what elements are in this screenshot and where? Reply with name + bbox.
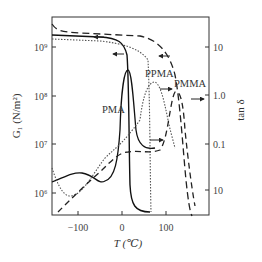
right-tick-label: 10 (213, 42, 223, 53)
ppma-tan-delta-curve (52, 82, 175, 196)
y-left-axis-title: G₁ (N/m²) (10, 93, 23, 138)
pmma-tan-delta-curve (58, 92, 195, 212)
x-tick-label: 0 (120, 222, 125, 233)
right-tick-label: 10 (213, 185, 223, 196)
left-tick-label: 10⁸ (34, 91, 48, 102)
right-tick-label: 0.1 (213, 139, 226, 150)
right-tick-label: 1.0 (213, 90, 226, 101)
pma-tan-delta-curve (52, 70, 155, 182)
x-axis-ticks (78, 211, 166, 215)
right-axis-ticks (205, 47, 209, 190)
pmma-label: PMMA (174, 78, 207, 89)
ppma-label: PPMA (145, 68, 174, 79)
pma-label: PMA (102, 104, 125, 115)
left-tick-label: 10⁷ (34, 139, 48, 150)
x-tick-label: −100 (68, 222, 89, 233)
left-tick-label: 10⁹ (34, 42, 48, 53)
y-right-axis-title: tan δ (234, 99, 246, 120)
x-tick-label: 100 (159, 222, 174, 233)
left-tick-label: 10⁶ (34, 188, 48, 199)
x-axis-title: T (℃) (114, 237, 143, 250)
chart: 10⁹ 10⁸ 10⁷ 10⁶ 10 1.0 0.1 10 −100 0 100… (0, 0, 262, 262)
pmma-modulus-curve (52, 24, 192, 216)
